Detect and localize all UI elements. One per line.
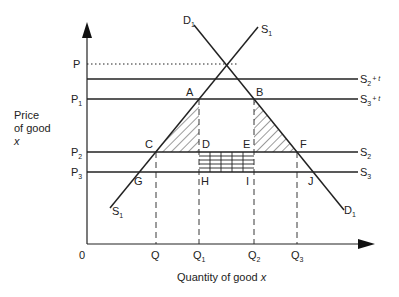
point-label-H: H xyxy=(201,175,209,187)
y-axis-arrow-icon xyxy=(82,22,92,38)
quantity-label-Q: Q xyxy=(151,249,160,261)
tariff-diagram: Price of good x Quantity of good x 0 P P… xyxy=(0,0,399,297)
point-label-B: B xyxy=(256,86,263,98)
quantity-label-Q3: Q3 xyxy=(291,249,304,263)
demand-curve-D1 xyxy=(194,25,344,210)
point-label-J: J xyxy=(308,175,314,187)
point-label-G: G xyxy=(134,175,143,187)
curve-label-D1-top: D1 xyxy=(183,14,195,28)
x-axis-title: Quantity of good x xyxy=(177,271,267,283)
curve-label-S3: S3 xyxy=(360,166,371,180)
point-label-A: A xyxy=(186,86,194,98)
origin-label: 0 xyxy=(79,249,85,261)
curve-label-S2: S2 xyxy=(360,146,371,160)
curve-label-S1-bottom: S1 xyxy=(112,205,123,219)
curve-label-S1-top: S1 xyxy=(261,23,272,37)
price-label-P: P xyxy=(73,58,80,70)
quantity-label-Q1: Q1 xyxy=(193,249,206,263)
quantity-label-Q2: Q2 xyxy=(248,249,261,263)
y-axis-title-line2: of good xyxy=(14,122,51,134)
point-label-I: I xyxy=(246,175,249,187)
price-label-P1: P1 xyxy=(71,93,82,107)
point-label-D: D xyxy=(202,138,210,150)
point-label-F: F xyxy=(300,138,307,150)
tariff-revenue-rectangle xyxy=(199,152,254,172)
point-label-E: E xyxy=(243,138,250,150)
price-label-P2: P2 xyxy=(71,146,82,160)
price-label-P3: P3 xyxy=(71,166,82,180)
curve-label-S3-plus-t: S3+ t xyxy=(360,93,381,107)
point-label-C: C xyxy=(145,138,153,150)
x-axis-arrow-icon xyxy=(358,239,375,249)
y-axis-title: Price xyxy=(14,109,39,121)
supply-curve-S1 xyxy=(110,27,258,208)
curve-label-D1-bottom: D1 xyxy=(344,204,356,218)
curve-label-S2-plus-t: S2+ t xyxy=(360,73,381,87)
y-axis-title-line3: x xyxy=(13,135,20,147)
